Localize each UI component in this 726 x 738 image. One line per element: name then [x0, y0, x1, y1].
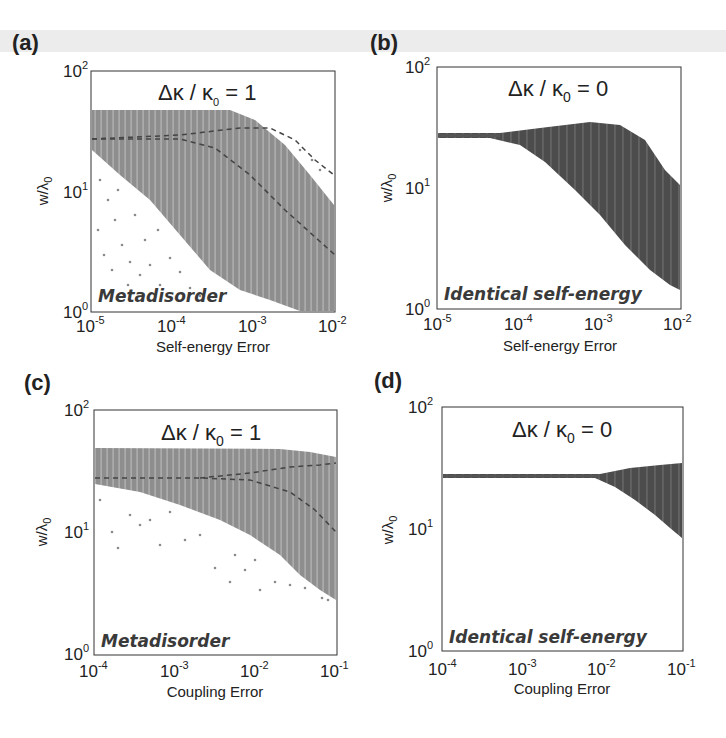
xtick-b-1: 10-4	[504, 312, 533, 334]
xtick-b-3: 10-2	[663, 312, 692, 334]
note-a: Metadisorder	[98, 286, 228, 306]
xtick-b-0: 10-5	[423, 312, 452, 334]
xtick-c-0: 10-4	[79, 659, 108, 681]
ytick-d-1: 101	[408, 517, 433, 539]
xlabel-a: Self-energy Error	[156, 338, 270, 355]
xtick-d-0: 10-4	[428, 657, 457, 679]
panel-a: Δκ / κ0 = 1 Metadisorder 102 101 100 10-…	[34, 59, 347, 355]
ylabel-d: w/λ0	[379, 516, 399, 546]
annotation-a: Δκ / κ0 = 1	[158, 80, 256, 108]
note-b: Identical self-energy	[444, 284, 643, 304]
annotation-d: Δκ / κ0 = 0	[512, 417, 612, 446]
panel-c: Δκ / κ0 = 1 Metadisorder 102 101 100 10-…	[33, 398, 349, 700]
annotation-c: Δκ / κ0 = 1	[161, 420, 261, 449]
note-d: Identical self-energy	[449, 627, 648, 647]
ylabel-a: w/λ0	[34, 177, 54, 207]
xtick-a-2: 10-3	[238, 314, 267, 336]
ylabel-b: w/λ0	[378, 174, 398, 204]
xlabel-b: Self-energy Error	[503, 337, 617, 354]
ytick-c-0: 100	[64, 642, 89, 664]
xtick-c-1: 10-3	[160, 659, 189, 681]
xtick-d-3: 10-1	[667, 657, 696, 679]
xtick-d-1: 10-3	[508, 657, 537, 679]
xtick-d-2: 10-2	[587, 657, 616, 679]
ytick-a-1: 101	[63, 180, 88, 202]
annotation-b: Δκ / κ0 = 0	[508, 76, 608, 105]
xtick-a-3: 10-2	[318, 314, 347, 336]
ylabel-c: w/λ0	[33, 518, 53, 548]
ytick-a-2: 102	[63, 59, 88, 81]
panel-b: Δκ / κ0 = 0 Identical self-energy 102 10…	[378, 55, 692, 354]
ytick-d-0: 100	[408, 639, 433, 661]
xlabel-d: Coupling Error	[514, 680, 611, 697]
figure-canvas: Δκ / κ0 = 1 Metadisorder 102 101 100 10-…	[0, 0, 726, 738]
ytick-b-2: 102	[405, 55, 430, 77]
ytick-c-2: 102	[64, 398, 89, 420]
note-c: Metadisorder	[101, 631, 231, 651]
panel-d: Δκ / κ0 = 0 Identical self-energy 102 10…	[379, 395, 696, 697]
xtick-b-2: 10-3	[584, 312, 613, 334]
xtick-a-1: 10-4	[157, 314, 186, 336]
xtick-c-3: 10-1	[320, 659, 349, 681]
xtick-c-2: 10-2	[240, 659, 269, 681]
ytick-b-1: 101	[405, 176, 430, 198]
xtick-a-0: 10-5	[76, 314, 105, 336]
ytick-c-1: 101	[64, 520, 89, 542]
xlabel-c: Coupling Error	[167, 683, 264, 700]
ytick-d-2: 102	[408, 395, 433, 417]
